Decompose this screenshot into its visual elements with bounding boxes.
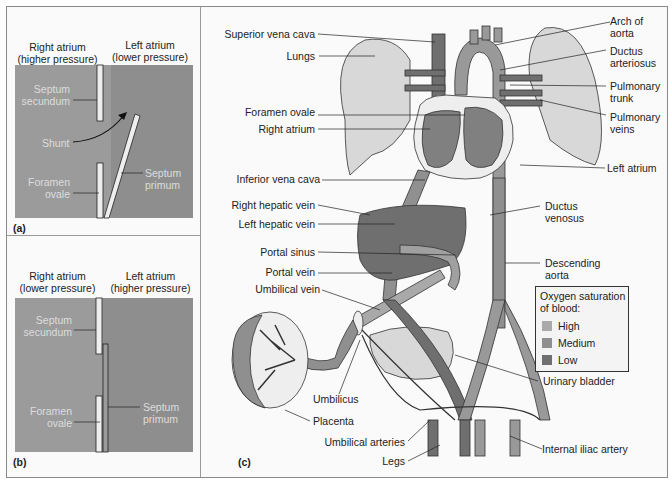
legend-item-low: Low bbox=[542, 354, 577, 366]
label-line: venosus bbox=[545, 212, 584, 224]
panel-c-graphic bbox=[232, 26, 602, 456]
label-lungs: Lungs bbox=[205, 50, 315, 62]
label-portal-sinus: Portal sinus bbox=[205, 246, 315, 258]
label-line: Ductus bbox=[545, 200, 584, 212]
label-line: Left atrium bbox=[110, 39, 190, 51]
label-line: (higher pressure) bbox=[15, 53, 100, 65]
label-line: ovale bbox=[18, 188, 70, 200]
label-pulmonary-veins: Pulmonary veins bbox=[610, 111, 660, 135]
panel-c-tag: (c) bbox=[238, 456, 251, 468]
legend-item-high: High bbox=[542, 320, 580, 332]
label-legs: Legs bbox=[290, 455, 405, 467]
panel-a-right-atrium-label: Right atrium (higher pressure) bbox=[15, 41, 100, 65]
label-line: primum bbox=[143, 413, 179, 425]
label-portal-vein: Portal vein bbox=[205, 266, 315, 278]
label-line: veins bbox=[610, 123, 660, 135]
label-internal-iliac-artery: Internal iliac artery bbox=[542, 443, 628, 455]
label-line: aorta bbox=[610, 27, 643, 39]
label-line: (lower pressure) bbox=[15, 282, 100, 294]
label-umbilicus: Umbilicus bbox=[313, 393, 359, 405]
label-line: aorta bbox=[545, 269, 600, 281]
label-left-atrium: Left atrium bbox=[607, 162, 657, 174]
label-right-hepatic-vein: Right hepatic vein bbox=[205, 199, 315, 211]
legend-item-medium: Medium bbox=[542, 337, 595, 349]
label-line: Septum bbox=[143, 401, 179, 413]
label-line: Septum bbox=[145, 167, 181, 179]
panel-b-right-atrium-label: Right atrium (lower pressure) bbox=[15, 270, 100, 294]
label-line: Left atrium bbox=[108, 270, 193, 282]
panel-a-septum-primum-label: Septum primum bbox=[145, 167, 181, 191]
legend-title: Oxygen saturation of blood: bbox=[540, 290, 625, 314]
legend-label: Medium bbox=[558, 337, 595, 349]
label-line: Foramen bbox=[18, 405, 72, 417]
label-line: secundum bbox=[18, 326, 72, 338]
label-line: (lower pressure) bbox=[110, 51, 190, 63]
label-line: Foramen bbox=[18, 176, 70, 188]
label-line: Septum bbox=[18, 83, 70, 95]
label-line: arteriosus bbox=[610, 57, 656, 69]
panel-a-shunt-label: Shunt bbox=[42, 137, 69, 149]
label-line: of blood: bbox=[540, 302, 625, 314]
label-line: ovale bbox=[18, 417, 72, 429]
label-left-hepatic-vein: Left hepatic vein bbox=[205, 218, 315, 230]
label-placenta: Placenta bbox=[313, 415, 354, 427]
label-pulmonary-trunk: Pulmonary trunk bbox=[610, 80, 660, 104]
label-urinary-bladder: Urinary bladder bbox=[543, 375, 615, 387]
label-inferior-vena-cava: Inferior vena cava bbox=[205, 173, 320, 185]
swatch-high-icon bbox=[542, 321, 552, 331]
panel-b-left-atrium-label: Left atrium (higher pressure) bbox=[108, 270, 193, 294]
label-line: trunk bbox=[610, 92, 660, 104]
swatch-low-icon bbox=[542, 355, 552, 365]
label-line: Right atrium bbox=[15, 41, 100, 53]
label-line: Oxygen saturation bbox=[540, 290, 625, 302]
panel-a-tag: (a) bbox=[13, 222, 26, 234]
panel-b-septum-primum-label: Septum primum bbox=[143, 401, 179, 425]
label-ductus-arteriosus: Ductus arteriosus bbox=[610, 45, 656, 69]
label-umbilical-arteries: Umbilical arteries bbox=[290, 436, 405, 448]
label-line: primum bbox=[145, 179, 181, 191]
panel-a-foramen-ovale-label: Foramen ovale bbox=[18, 176, 70, 200]
panel-b-septum-secundum-label: Septum secundum bbox=[18, 314, 72, 338]
label-right-atrium: Right atrium bbox=[205, 123, 315, 135]
swatch-medium-icon bbox=[542, 338, 552, 348]
panel-b-foramen-ovale-label: Foramen ovale bbox=[18, 405, 72, 429]
oxygen-saturation-legend: Oxygen saturation of blood: High Medium … bbox=[535, 286, 629, 372]
label-line: Ductus bbox=[610, 45, 656, 57]
label-line: Pulmonary bbox=[610, 80, 660, 92]
label-superior-vena-cava: Superior vena cava bbox=[205, 28, 315, 40]
label-line: Right atrium bbox=[15, 270, 100, 282]
panel-a-left-atrium-label: Left atrium (lower pressure) bbox=[110, 39, 190, 63]
label-line: Arch of bbox=[610, 15, 643, 27]
diagram-graphics bbox=[0, 0, 672, 484]
label-line: secundum bbox=[18, 95, 70, 107]
label-ductus-venosus: Ductus venosus bbox=[545, 200, 584, 224]
legend-label: High bbox=[558, 320, 580, 332]
panel-b-tag: (b) bbox=[13, 456, 26, 468]
label-line: (higher pressure) bbox=[108, 282, 193, 294]
label-line: Septum bbox=[18, 314, 72, 326]
label-line: Pulmonary bbox=[610, 111, 660, 123]
label-descending-aorta: Descending aorta bbox=[545, 257, 600, 281]
label-line: Descending bbox=[545, 257, 600, 269]
label-umbilical-vein: Umbilical vein bbox=[205, 283, 320, 295]
label-arch-of-aorta: Arch of aorta bbox=[610, 15, 643, 39]
label-foramen-ovale: Foramen ovale bbox=[205, 106, 315, 118]
legend-label: Low bbox=[558, 354, 577, 366]
panel-a-septum-secundum-label: Septum secundum bbox=[18, 83, 70, 107]
